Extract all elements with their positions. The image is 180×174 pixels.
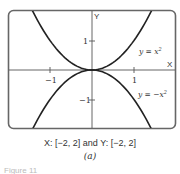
y-tick-label-pos1: 1 bbox=[83, 37, 88, 46]
subfigure-label: (a) bbox=[0, 151, 180, 161]
annotation-upper-curve: y = x2 bbox=[138, 46, 162, 56]
window-caption: X: [−2, 2] and Y: [−2, 2] bbox=[0, 138, 180, 148]
y-axis-label: Y bbox=[94, 12, 100, 21]
figure-label: Figure 11 bbox=[4, 166, 37, 174]
x-tick-label-neg1: −1 bbox=[45, 76, 57, 85]
x-axis-label: X bbox=[167, 60, 173, 69]
y-tick-label-neg1: −1 bbox=[79, 96, 91, 105]
x-tick-label-pos1: 1 bbox=[132, 76, 137, 85]
annotation-lower-curve: y = −x2 bbox=[137, 89, 167, 99]
